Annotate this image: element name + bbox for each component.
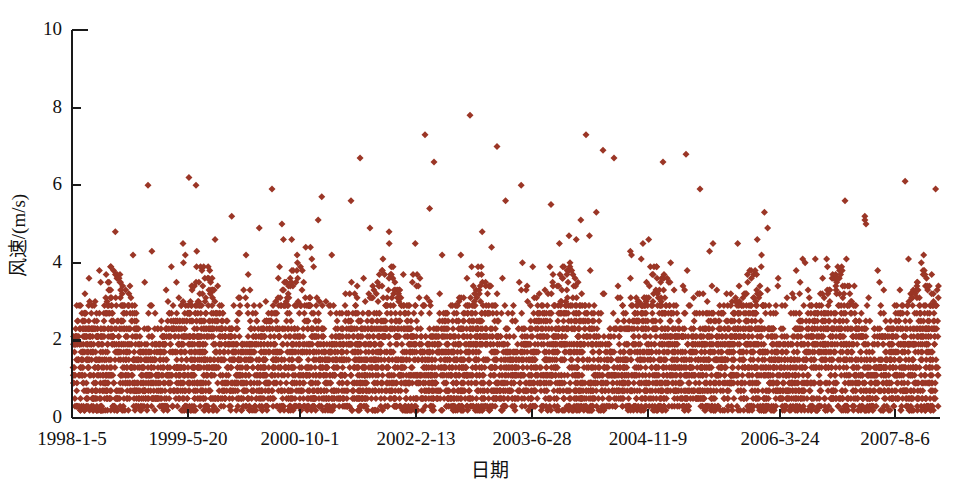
y-tick-label: 4	[22, 251, 62, 273]
chart-background	[0, 0, 960, 489]
y-tick-label: 0	[22, 406, 62, 428]
plot-canvas	[0, 0, 960, 489]
y-tick-label: 10	[22, 18, 62, 40]
y-tick-label: 8	[22, 96, 62, 118]
y-tick-label: 6	[22, 173, 62, 195]
x-tick-label: 2004-11-9	[578, 428, 718, 450]
y-tick-label: 2	[22, 328, 62, 350]
wind-speed-scatter-chart: 风速/(m/s) 日期 0246810 1998-1-51999-5-20200…	[0, 0, 960, 489]
x-axis-title: 日期	[430, 455, 550, 482]
x-tick-label: 2007-8-6	[825, 428, 960, 450]
